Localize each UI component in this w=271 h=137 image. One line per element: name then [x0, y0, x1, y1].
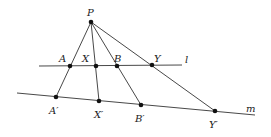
line-label-l: l [185, 54, 188, 65]
point-label-B1: B′ [134, 113, 145, 124]
point-label-Y1: Y′ [209, 119, 219, 130]
point-Y1 [213, 109, 218, 114]
point-label-Y: Y [154, 53, 162, 64]
point-label-X: X [81, 53, 90, 64]
line-l [39, 65, 182, 66]
point-label-X1: X′ [93, 109, 104, 120]
point-A1 [54, 95, 59, 100]
point-X [94, 64, 99, 69]
projection-rays-group [56, 22, 215, 111]
point-label-B: B [113, 53, 121, 64]
labels-group: lmPAXBYA′X′B′Y′ [48, 7, 255, 130]
line-label-m: m [246, 103, 255, 114]
point-X1 [97, 99, 102, 104]
point-label-P: P [86, 7, 94, 18]
point-label-A1: A′ [48, 105, 59, 116]
projection-diagram: lmPAXBYA′X′B′Y′ [0, 0, 271, 137]
points-group [54, 20, 218, 114]
point-B1 [139, 103, 144, 108]
point-A [68, 64, 73, 69]
point-label-A: A [58, 53, 66, 64]
point-B [115, 64, 120, 69]
point-P [89, 20, 94, 25]
